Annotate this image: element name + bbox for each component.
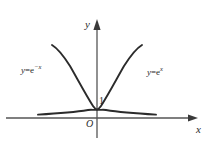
curve-label-exp-neg-x: y=e−x [21,66,41,75]
curve-label-exp-x: y=ex [147,68,163,77]
curve-label-right-exponent: x [160,65,163,72]
math-figure: y x O 1 y=e−x y=ex [0,0,209,142]
y-intercept-tick-label: 1 [99,96,104,106]
curve-label-right-equals-base: =e [151,67,160,77]
x-axis-label: x [196,124,201,135]
x-axis-arrowhead [188,115,198,122]
origin-label: O [86,119,93,129]
y-axis-label: y [85,19,90,30]
curve-exp-x [38,45,142,115]
curve-exp-neg-x [52,45,156,115]
curve-label-left-equals-base: =e [25,65,34,75]
y-axis-arrowhead [93,19,100,30]
curve-label-left-exponent: −x [34,63,41,70]
